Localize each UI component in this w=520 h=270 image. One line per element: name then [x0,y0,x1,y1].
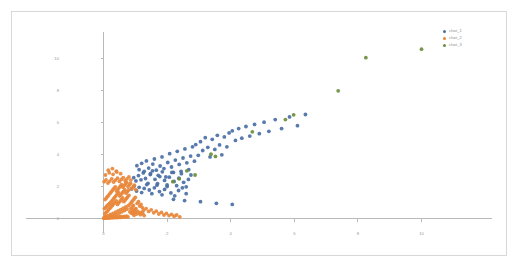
y-tick-label: 4 [57,152,60,157]
data-point [214,155,218,159]
data-point [155,183,159,187]
data-point [152,157,156,161]
data-point [158,190,162,194]
data-point [111,172,115,176]
data-point [147,166,151,170]
data-point [218,143,222,147]
x-tick-label: 6 [293,231,296,236]
data-point [137,185,141,189]
data-point [180,172,184,176]
data-point [248,134,252,138]
data-point [193,159,197,163]
data-point [129,178,133,182]
data-point [134,188,138,192]
data-point [262,120,266,124]
legend-swatch-icon-clust-1 [443,30,446,33]
data-point [125,207,129,211]
data-point [203,136,207,140]
data-point [175,149,179,153]
data-point [144,207,148,211]
data-point [215,133,219,137]
data-point [133,195,137,199]
data-point [183,147,187,151]
data-point [185,169,189,173]
data-point [132,183,136,187]
data-point [134,179,138,183]
data-point [163,179,167,183]
data-point [288,115,292,119]
data-point [210,137,214,141]
data-point [304,113,308,117]
data-point [230,203,234,207]
legend-item-clust-3[interactable]: clust_3 [443,42,489,48]
data-point [201,149,205,153]
data-point [153,177,157,181]
data-point [148,173,152,177]
data-point [267,129,271,133]
data-point [110,177,114,181]
data-point [213,147,217,151]
x-tick-label: 4 [230,231,233,236]
data-point [106,168,110,172]
data-point [187,178,191,182]
data-point [181,156,185,160]
legend-item-clust-2[interactable]: clust_2 [443,35,489,41]
data-point [150,192,154,196]
data-point [273,118,277,122]
legend-item-clust-1[interactable]: clust_1 [443,28,489,34]
data-point [420,47,424,51]
data-point [147,188,151,192]
data-point [182,180,186,184]
data-point [185,161,189,165]
data-point [237,127,241,131]
data-point [142,187,146,191]
data-point [165,185,169,189]
data-point [151,169,155,173]
data-point [114,169,118,173]
data-point [244,125,248,129]
data-point [336,89,340,93]
data-point [175,213,179,217]
data-point [142,214,146,218]
y-tick-label: 10 [54,56,59,61]
data-point [177,163,181,167]
data-point [214,201,218,205]
data-point [280,127,284,131]
data-point [140,191,144,195]
data-point [104,178,108,182]
data-point [126,215,130,219]
data-point [180,186,184,190]
data-point [177,177,181,181]
data-point [227,131,231,135]
legend-label-clust-1: clust_1 [449,28,462,34]
data-point [206,145,210,149]
y-tick-label: 2 [57,184,60,189]
series-clust_1 [130,113,308,207]
data-point [284,118,288,122]
data-point [191,145,195,149]
data-point [172,197,176,201]
data-point [240,136,244,140]
data-point [257,132,261,136]
data-point [194,143,198,147]
data-point [139,178,143,182]
data-point [177,189,181,193]
data-point [189,173,193,177]
x-tick-label: 10 [419,231,424,236]
data-point [164,175,168,179]
legend-swatch-icon-clust-2 [443,37,446,40]
data-point [163,187,167,191]
data-point [175,184,179,188]
data-point [119,172,123,176]
data-point [296,124,300,128]
data-point [144,177,148,181]
y-tick-label: 8 [57,88,60,93]
legend-label-clust-2: clust_2 [449,35,462,41]
data-point [141,171,145,175]
data-points-group [102,47,423,220]
data-point [154,168,158,172]
x-tick-label: 2 [166,231,169,236]
legend-label-clust-3: clust_3 [449,42,462,48]
data-point [167,175,171,179]
plot-area: 02468100246810 [0,0,520,270]
